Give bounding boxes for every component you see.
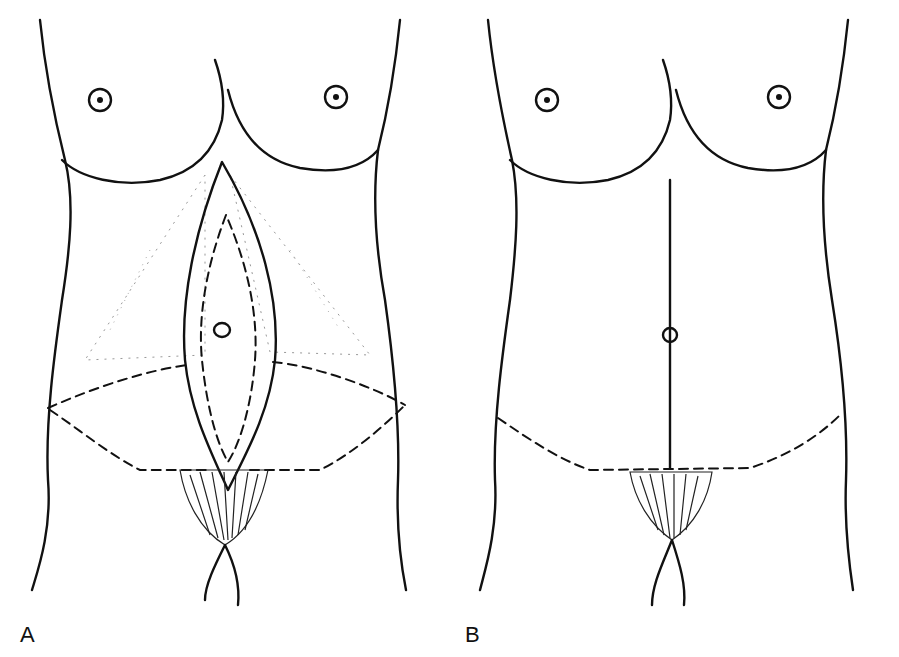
pubic-hair (630, 472, 712, 605)
inner-dashed-ellipse (201, 215, 256, 462)
umbilicus-icon (214, 323, 230, 337)
panel-a-drawing (32, 20, 406, 605)
panel-label-a: A (20, 622, 35, 648)
figure-illustration (0, 0, 899, 657)
panel-label-b: B (465, 622, 480, 648)
pubic-hair (180, 470, 268, 605)
stipple-area (85, 175, 370, 360)
panel-b-drawing (480, 20, 853, 605)
